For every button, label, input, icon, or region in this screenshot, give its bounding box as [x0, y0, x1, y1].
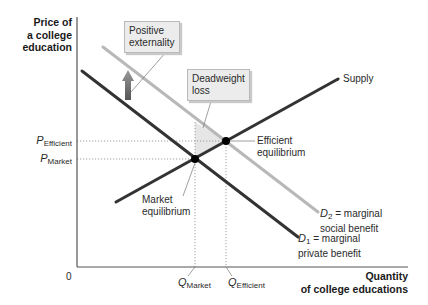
d1-label-line-1: = marginal [310, 233, 360, 244]
efficient-equilibrium-point [222, 137, 230, 145]
origin-label: 0 [66, 271, 72, 283]
q-symbol: Q [228, 276, 237, 288]
positive-externality-callout: Positive externality [124, 21, 180, 53]
callout-line-2: externality [129, 37, 175, 49]
callout-line-1: Positive [129, 25, 175, 37]
p-symbol: P [36, 134, 43, 146]
callout-line-1: Deadweight [192, 73, 245, 85]
callout-line-2: loss [192, 85, 245, 97]
y-axis-label: Price of a college education [2, 16, 72, 54]
supply-label: Supply [343, 73, 374, 85]
p-market-label: PMarket [2, 152, 72, 168]
efficient-equilibrium-label: Efficient equilibrium [257, 135, 305, 159]
label-line-1: Market [142, 194, 190, 206]
d-symbol: D [298, 232, 306, 244]
p-market-subscript: Market [48, 157, 72, 166]
y-axis-label-line-1: Price of [2, 16, 72, 29]
x-axis-label: Quantity of college educations [258, 270, 408, 295]
p-symbol: P [40, 152, 47, 164]
x-axis-label-line-2: of college educations [258, 283, 408, 296]
upward-arrow-icon [122, 70, 134, 100]
d1-label-line-2: private benefit [298, 248, 361, 260]
x-axis-label-line-1: Quantity [258, 270, 408, 283]
q-market-subscript: Market [187, 281, 211, 290]
deadweight-loss-area [195, 122, 226, 159]
deadweight-loss-callout: Deadweight loss [187, 69, 250, 101]
d2-label-line-1: = marginal [332, 208, 382, 219]
d1-label: D1 = marginal private benefit [298, 232, 361, 260]
p-efficient-subscript: Efficient [44, 139, 72, 148]
y-axis-label-line-3: education [2, 41, 72, 54]
label-line-2: equilibrium [142, 206, 190, 218]
q-market-label: QMarket [178, 276, 211, 292]
p-efficient-label: PEfficient [2, 134, 72, 150]
y-axis-label-line-2: a college [2, 29, 72, 42]
market-equilibrium-point [191, 155, 199, 163]
label-line-2: equilibrium [257, 147, 305, 159]
q-symbol: Q [178, 276, 187, 288]
label-line-1: Efficient [257, 135, 305, 147]
market-equilibrium-label: Market equilibrium [142, 194, 190, 218]
d2-label: D2 = marginal social benefit [320, 207, 382, 235]
d-symbol: D [320, 207, 328, 219]
